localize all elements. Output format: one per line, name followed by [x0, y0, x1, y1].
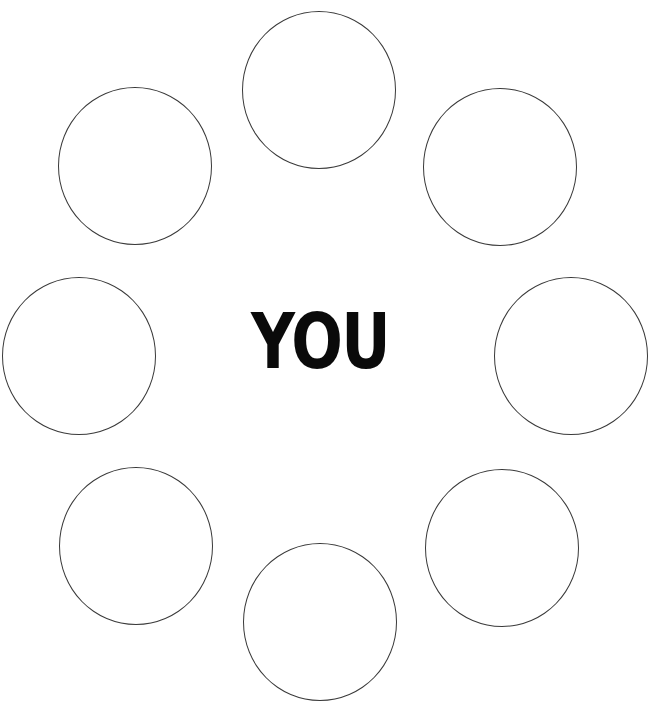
circle-bottom-right	[425, 469, 579, 627]
circle-top-right	[423, 88, 577, 246]
circle-left	[2, 277, 156, 435]
circle-right	[494, 277, 648, 435]
circle-bottom	[243, 543, 397, 701]
circle-top-left	[58, 87, 212, 245]
circle-top	[242, 11, 396, 169]
circle-bottom-left	[59, 467, 213, 625]
center-label: YOU	[262, 296, 377, 386]
